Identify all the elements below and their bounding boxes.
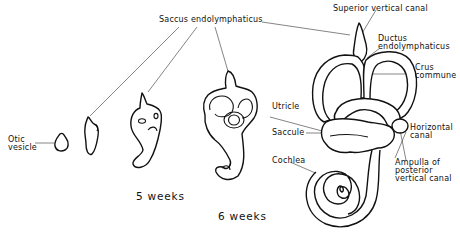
horizontal-canal-label: Horizontal canal (410, 124, 453, 140)
five-weeks-label: 5 weeks (136, 191, 185, 202)
crus-commune-label: Crus commune (415, 64, 456, 80)
stage-2-shape (85, 117, 99, 154)
utricle-label: Utricle (272, 103, 299, 111)
six-weeks-label: 6 weeks (218, 211, 267, 222)
stage-5-shape (306, 23, 416, 227)
ductus-label-line2: endolymphaticus (378, 43, 450, 51)
otic-vesicle-shape (55, 133, 68, 151)
crus-label-line2: commune (415, 72, 456, 80)
ampulla-label: Ampulla of posterior vertical canal (395, 159, 452, 183)
ductus-endolymphaticus-label: Ductus endolymphaticus (378, 35, 450, 51)
cochlea-label: Cochlea (272, 157, 305, 165)
superior-vertical-canal-label: Superior vertical canal (333, 5, 428, 13)
stage-3-shape (131, 93, 162, 167)
otic-vesicle-label-line2: vesicle (8, 144, 37, 152)
horizontal-label-line2: canal (410, 132, 453, 140)
stage-4-shape (204, 71, 257, 179)
otic-vesicle-label: Otic vesicle (8, 136, 37, 152)
ampulla-label-line3: vertical canal (395, 175, 452, 183)
saccus-endolymphaticus-label: Saccus endolymphaticus (159, 16, 263, 24)
inner-ear-development-diagram: Otic vesicle Saccus endolymphaticus Supe… (0, 0, 460, 238)
saccule-label: Saccule (272, 129, 304, 137)
